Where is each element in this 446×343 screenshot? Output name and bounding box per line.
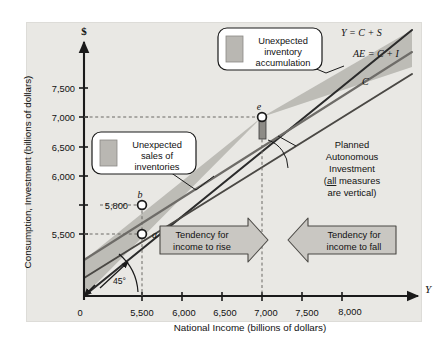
swatch-accumulation <box>226 36 243 62</box>
point-b <box>138 201 147 210</box>
planned-line-5: are vertical) <box>328 187 377 198</box>
y-tick-5500: 5,500 <box>52 230 75 240</box>
x-tick-7000: 7,000 <box>254 308 277 318</box>
line-label-c: C <box>362 76 369 87</box>
tendency-arrow-income-rise[interactable]: Tendency for income to rise <box>160 218 268 262</box>
y-axis-symbol: $ <box>81 25 87 37</box>
point-a <box>138 230 147 239</box>
x-axis-title: National Income (billions of dollars) <box>174 322 326 333</box>
line-label-ae: AE = C + I <box>352 48 399 59</box>
callout-sales-line-2: sales of <box>141 151 173 161</box>
angle-label: 45° <box>113 276 126 286</box>
tendency-rise-line-1: Tendency for <box>175 230 228 240</box>
x-tick-6500: 6,500 <box>213 308 236 318</box>
x-tick-6000: 6,000 <box>172 308 195 318</box>
planned-line-1: Planned <box>335 139 369 150</box>
planned-line-4-post: measures <box>336 175 380 186</box>
tendency-fall-line-2: income to fall <box>327 242 382 252</box>
planned-line-4-underlined: all <box>327 175 336 186</box>
callout-accumulation-line-1: Unexpected <box>258 36 308 46</box>
planned-line-2: Autonomous <box>326 151 379 162</box>
x-tick-5500: 5,500 <box>130 308 153 318</box>
y-axis-title: Consumption, Investment (billions of dol… <box>22 76 33 269</box>
callout-accumulation-line-3: accumulation <box>256 58 311 68</box>
tendency-rise-line-2: income to rise <box>173 242 231 252</box>
x-tick-7500: 7,500 <box>295 308 318 318</box>
tendency-arrow-income-fall[interactable]: Tendency for income to fall <box>288 218 396 262</box>
y-tick-7500: 7,500 <box>52 84 75 94</box>
x-tick-8000: 8,000 <box>338 307 361 317</box>
tendency-fall-line-1: Tendency for <box>327 230 380 240</box>
callout-inventory-accumulation[interactable]: Unexpected inventory accumulation <box>218 28 322 70</box>
leader-planned-investment <box>278 136 296 146</box>
origin-label: 0 <box>77 308 82 318</box>
y-tick-6000: 6,000 <box>52 172 75 182</box>
point-label-e: e <box>257 101 262 112</box>
callout-accumulation-line-2: inventory <box>264 47 302 57</box>
annotation-planned-investment: Planned Autonomous Investment (all measu… <box>324 139 381 198</box>
callout-inventory-sales[interactable]: Unexpected sales of inventories <box>92 132 196 174</box>
y-tick-7000: 7,000 <box>52 113 75 123</box>
planned-line-3: Investment <box>329 163 375 174</box>
value-label-5800: 5,800 <box>105 201 128 211</box>
callout-sales-line-3: inventories <box>135 162 180 172</box>
y-tick-6500: 6,500 <box>52 143 75 153</box>
callout-sales-line-1: Unexpected <box>132 140 182 150</box>
keynesian-cross-figure: 5,500 6,000 6,500 7,000 7,500 5,800 0 5,… <box>0 0 446 343</box>
planned-line-4: (all measures <box>324 175 381 186</box>
swatch-sales <box>100 140 117 166</box>
point-e <box>258 113 267 122</box>
point-label-a: a <box>152 229 157 240</box>
line-label-y: Y = C + S <box>341 27 382 38</box>
point-label-b: b <box>138 189 143 200</box>
x-axis-symbol: Y <box>425 283 433 295</box>
chart-canvas: 5,500 6,000 6,500 7,000 7,500 5,800 0 5,… <box>0 0 446 343</box>
